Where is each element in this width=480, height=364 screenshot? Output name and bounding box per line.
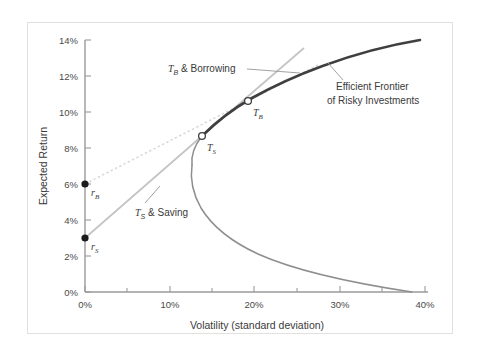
annotation-ts-leader [145, 186, 160, 203]
annot-tb-rest: & Borrowing [178, 63, 235, 74]
marker-rb-dot [81, 180, 88, 187]
label-rs: rS [91, 241, 99, 255]
label-tb: TB [253, 107, 264, 121]
label-rb-sub: B [95, 193, 100, 201]
x-axis-ticks [85, 286, 425, 292]
annotation-tb-leader [247, 69, 300, 73]
figure-container: 14% 12% 10% 8% 6% 4% 2% 0% 0% 10% 20% 30… [0, 0, 480, 364]
svg-text:rB: rB [91, 187, 100, 201]
series-ts-saving-line [85, 48, 304, 238]
marker-tb-point [245, 98, 252, 105]
axis-lines [85, 40, 428, 292]
annotation-efficient-frontier: Efficient Frontier of Risky Investments [327, 63, 419, 106]
marker-ts-point [199, 133, 206, 140]
svg-text:TS & Saving: TS & Saving [135, 207, 188, 220]
y-tick-label-4: 4% [64, 215, 78, 226]
x-tick-label-30: 30% [330, 299, 350, 310]
y-tick-label-8: 8% [64, 143, 78, 154]
annotation-ef-leader [328, 63, 343, 80]
svg-text:TB: TB [253, 107, 264, 121]
svg-text:TS: TS [207, 142, 217, 156]
annot-ef-line2: of Risky Investments [327, 95, 419, 106]
label-ts-sub: S [213, 148, 217, 156]
y-tick-label-6: 6% [64, 179, 78, 190]
chart-svg: 14% 12% 10% 8% 6% 4% 2% 0% 0% 10% 20% 30… [0, 0, 480, 364]
series-inefficient-frontier [191, 165, 412, 292]
label-rb: rB [91, 187, 100, 201]
y-tick-label-2: 2% [64, 251, 78, 262]
annotation-ts-saving: TS & Saving [135, 186, 188, 220]
x-tick-label-0: 0% [78, 299, 92, 310]
y-tick-label-0: 0% [64, 287, 78, 298]
svg-text:rS: rS [91, 241, 99, 255]
x-tick-label-20: 20% [244, 299, 264, 310]
annot-ts-rest: & Saving [145, 207, 188, 218]
x-axis-title: Volatility (standard deviation) [190, 319, 324, 331]
y-tick-label-10: 10% [59, 107, 79, 118]
marker-rs-dot [81, 234, 88, 241]
svg-text:TB & Borrowing: TB & Borrowing [168, 63, 235, 76]
y-tick-label-14: 14% [59, 35, 79, 46]
x-tick-label-10: 10% [160, 299, 180, 310]
label-tb-sub: B [259, 113, 264, 121]
annot-ef-line1: Efficient Frontier [336, 81, 409, 92]
y-axis-ticks [85, 40, 91, 292]
label-ts: TS [207, 142, 217, 156]
y-tick-label-12: 12% [59, 71, 79, 82]
y-axis-title: Expected Return [37, 127, 49, 205]
label-rs-sub: S [95, 247, 99, 255]
x-tick-label-40: 40% [415, 299, 435, 310]
